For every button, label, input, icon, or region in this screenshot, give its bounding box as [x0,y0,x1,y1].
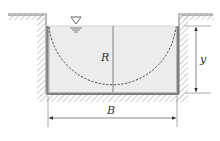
left-bank [8,14,46,96]
depth-dimension [185,26,211,93]
width-label: B [107,105,115,116]
radius-label: R [101,52,109,63]
water-region [48,26,177,93]
channel-diagram [0,0,220,141]
channel-bed [37,95,188,102]
depth-label: y [200,54,206,65]
